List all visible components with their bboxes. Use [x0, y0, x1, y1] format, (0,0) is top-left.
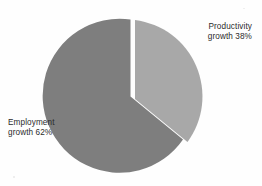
pie-chart-figure: Productivity growth 38% Employment growt…	[0, 0, 262, 186]
pie-label-productivity-line1: Productivity	[186, 22, 252, 32]
scan-artifact-speck	[13, 176, 15, 178]
pie-label-employment-line1: Employment	[8, 118, 68, 128]
pie-label-productivity: Productivity growth 38%	[186, 22, 252, 43]
pie-label-employment: Employment growth 62%	[8, 118, 68, 139]
scan-artifact-speck	[243, 8, 245, 9]
pie-label-employment-line2: growth 62%	[8, 128, 68, 138]
pie-label-productivity-line2: growth 38%	[186, 32, 252, 42]
